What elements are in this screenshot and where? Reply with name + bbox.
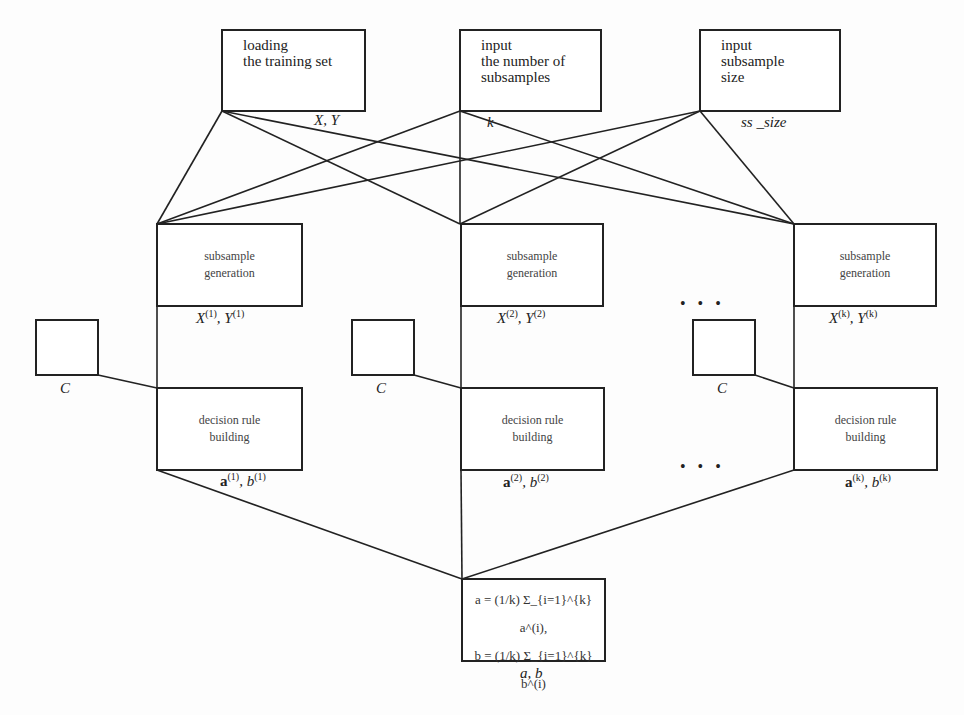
diagram-canvas: loadingthe training set inputthe number … <box>0 0 964 715</box>
input-subsample-size-box: inputsubsamplesize <box>699 29 841 112</box>
box-label: generation <box>795 265 935 282</box>
ellipsis-lower: • • • <box>680 458 725 476</box>
box-label: input <box>721 37 839 53</box>
subsample-generation-box-1: subsamplegeneration <box>156 223 303 307</box>
decision-rule-box-2: decision rulebuilding <box>460 387 605 471</box>
c-label-2: C <box>376 380 386 397</box>
box-label: subsample <box>462 248 602 265</box>
subsample-output-label-1: X(1), Y(1) <box>196 308 244 327</box>
box-label: size <box>721 69 839 85</box>
box-label: decision rule <box>158 412 301 429</box>
xy-output-label: X, Y <box>314 112 339 129</box>
box-label: decision rule <box>462 412 603 429</box>
decision-rule-box-1: decision rulebuilding <box>156 387 303 471</box>
box-label: building <box>158 429 301 446</box>
box-label: building <box>462 429 603 446</box>
load-training-set-box: loadingthe training set <box>221 29 366 112</box>
formula-a: a = (1/k) Σ_{i=1}^{k} a^(i), <box>463 586 604 642</box>
box-label: loading <box>243 37 364 53</box>
box-label: generation <box>462 265 602 282</box>
c-parameter-box-k <box>692 319 756 376</box>
input-number-subsamples-box: inputthe number ofsubsamples <box>459 29 602 112</box>
ss-size-output-label: ss _size <box>741 114 786 131</box>
box-label: generation <box>158 265 301 282</box>
box-label: subsample <box>158 248 301 265</box>
subsample-generation-box-k: subsamplegeneration <box>793 223 937 307</box>
k-output-label: k <box>487 114 494 131</box>
aggregate-box: a = (1/k) Σ_{i=1}^{k} a^(i), b = (1/k) Σ… <box>461 578 606 662</box>
box-label: the number of <box>481 53 600 69</box>
rule-output-label-k: a(k), b(k) <box>845 472 891 491</box>
rule-output-label-2: a(2), b(2) <box>503 472 549 491</box>
box-label: subsample <box>721 53 839 69</box>
box-label: the training set <box>243 53 364 69</box>
box-label: building <box>795 429 936 446</box>
box-label: decision rule <box>795 412 936 429</box>
c-label-k: C <box>717 380 727 397</box>
ellipsis-upper: • • • <box>680 295 725 313</box>
rule-output-label-1: a(1), b(1) <box>220 471 266 490</box>
box-label: subsamples <box>481 69 600 85</box>
subsample-generation-box-2: subsamplegeneration <box>460 223 604 307</box>
c-label-1: C <box>60 380 70 397</box>
box-label: subsample <box>795 248 935 265</box>
subsample-output-label-k: X(k), Y(k) <box>829 308 877 327</box>
subsample-output-label-2: X(2), Y(2) <box>497 308 545 327</box>
box-label: input <box>481 37 600 53</box>
c-parameter-box-1 <box>35 319 99 376</box>
decision-rule-box-k: decision rulebuilding <box>793 387 938 471</box>
final-output-label: a, b <box>520 665 543 682</box>
c-parameter-box-2 <box>351 319 415 376</box>
